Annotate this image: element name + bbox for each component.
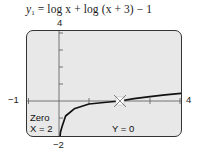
x-min-label: −1 [8,94,19,105]
equation-lhs-sub: 1 [31,9,35,17]
y-max-label: 4 [57,17,62,28]
zero-mode-label: Zero [30,113,50,123]
trace-cursor-icon [114,95,126,107]
calculator-screen: Zero X = 2 Y = 0 [26,30,182,137]
equation-rhs: = log x + log (x + 3) − 1 [38,3,152,15]
y-readout: Y = 0 [112,124,134,134]
x-readout: X = 2 [30,124,52,134]
y-axis-ticks [59,33,63,118]
x-max-label: 4 [186,94,191,105]
equation-title: y1 = log x + log (x + 3) − 1 [26,3,152,17]
graph-plot [27,31,182,137]
y-min-label: −2 [53,139,64,150]
